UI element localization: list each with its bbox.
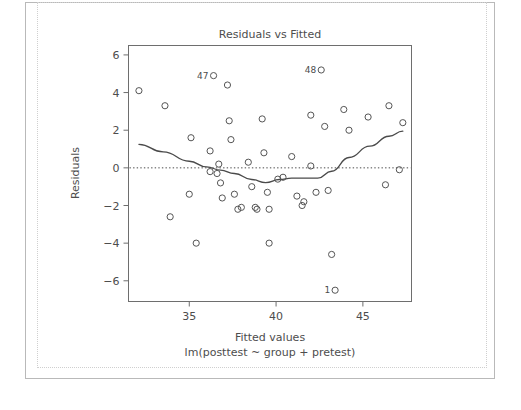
data-point	[216, 161, 222, 167]
data-point	[365, 114, 371, 120]
data-point	[210, 73, 216, 79]
data-point	[313, 189, 319, 195]
outlier-label: 1	[324, 285, 330, 295]
data-point	[188, 135, 194, 141]
data-point	[214, 170, 220, 176]
y-tick-label: −2	[103, 200, 119, 213]
data-point	[252, 204, 258, 210]
data-point	[193, 240, 199, 246]
figure-page: Residuals vs Fitted Residuals Fitted val…	[0, 0, 521, 410]
data-point	[219, 195, 225, 201]
data-point	[226, 118, 232, 124]
data-point	[322, 123, 328, 129]
y-tick-label: −6	[103, 275, 119, 288]
data-point	[167, 214, 173, 220]
data-point	[186, 191, 192, 197]
data-point	[299, 202, 305, 208]
x-tick-label: 35	[182, 310, 196, 323]
outlier-label: 48	[305, 65, 317, 75]
data-point	[259, 116, 265, 122]
data-point	[136, 88, 142, 94]
y-axis-ticks: 6420−2−4−6	[103, 49, 128, 288]
y-tick-label: 0	[113, 162, 120, 175]
data-point	[264, 189, 270, 195]
data-point	[224, 82, 230, 88]
data-point	[396, 167, 402, 173]
x-tick-label: 45	[356, 310, 370, 323]
plot-panel-frame	[129, 46, 412, 302]
data-point	[294, 193, 300, 199]
data-point	[341, 106, 347, 112]
chart-title: Residuals vs Fitted	[219, 28, 321, 41]
data-point	[207, 148, 213, 154]
data-point	[308, 112, 314, 118]
data-point	[261, 150, 267, 156]
data-point	[382, 182, 388, 188]
data-point	[386, 103, 392, 109]
loess-smoother-line	[139, 131, 403, 182]
x-axis-ticks: 354045	[182, 302, 370, 323]
residuals-vs-fitted-plot: Residuals vs Fitted Residuals Fitted val…	[0, 0, 521, 410]
x-axis-label: Fitted values	[235, 331, 306, 344]
data-point	[207, 169, 213, 175]
data-point	[266, 206, 272, 212]
x-axis-sublabel: lm(posttest ~ group + pretest)	[185, 346, 356, 359]
point-labels: 47481	[197, 65, 330, 295]
data-point	[289, 153, 295, 159]
data-point	[217, 180, 223, 186]
data-point	[245, 159, 251, 165]
smoother-path	[139, 131, 403, 182]
y-tick-label: 4	[113, 87, 120, 100]
scatter-points	[136, 67, 406, 293]
data-point	[332, 287, 338, 293]
outlier-label: 47	[197, 71, 208, 81]
data-point	[162, 103, 168, 109]
x-tick-label: 40	[269, 310, 283, 323]
y-tick-label: −4	[103, 237, 119, 250]
y-tick-label: 2	[113, 124, 120, 137]
data-point	[325, 187, 331, 193]
data-point	[249, 184, 255, 190]
data-point	[346, 127, 352, 133]
data-point	[231, 191, 237, 197]
data-point	[301, 199, 307, 205]
data-point	[228, 137, 234, 143]
data-point	[329, 251, 335, 257]
data-point	[266, 240, 272, 246]
data-point	[400, 120, 406, 126]
data-point	[254, 206, 260, 212]
data-point	[318, 67, 324, 73]
y-tick-label: 6	[113, 49, 120, 62]
y-axis-label: Residuals	[69, 147, 82, 199]
